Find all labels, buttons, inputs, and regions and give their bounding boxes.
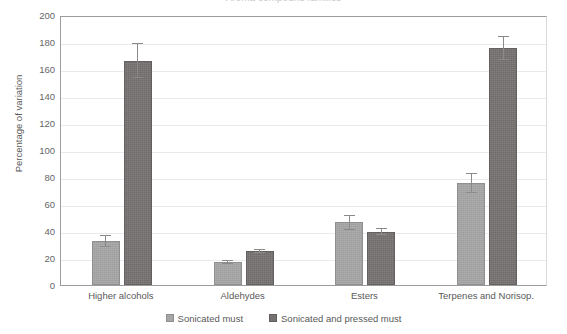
bar-group bbox=[183, 15, 305, 285]
bar bbox=[457, 183, 485, 285]
y-tick-label: 200 bbox=[3, 11, 55, 21]
bar-chart: Aroma compound families 2001801601401201… bbox=[0, 0, 567, 334]
error-bar-cap-top bbox=[344, 215, 355, 216]
bar bbox=[246, 251, 274, 285]
bar bbox=[124, 61, 152, 285]
y-axis-tick-labels: 200180160140120100806040200 bbox=[0, 16, 55, 286]
y-tick-label: 40 bbox=[3, 227, 55, 237]
y-axis-title: Percentage of variation bbox=[13, 34, 24, 214]
legend-swatch-icon bbox=[269, 314, 277, 322]
bar bbox=[214, 262, 242, 285]
bar-group bbox=[426, 15, 548, 285]
cropped-chart-title: Aroma compound families bbox=[0, 0, 567, 7]
error-bar-cap-top bbox=[498, 36, 509, 37]
chart-legend: Sonicated mustSonicated and pressed must bbox=[0, 310, 567, 326]
y-tick-label: 120 bbox=[3, 119, 55, 129]
legend-swatch-icon bbox=[166, 314, 174, 322]
error-bar-cap-top bbox=[100, 235, 111, 236]
legend-label: Sonicated and pressed must bbox=[281, 313, 401, 324]
error-bar-cap-top bbox=[466, 173, 477, 174]
y-tick-label: 140 bbox=[3, 92, 55, 102]
legend-item[interactable]: Sonicated must bbox=[166, 313, 243, 324]
error-bar-cap-top bbox=[376, 228, 387, 229]
bar-group bbox=[61, 15, 183, 285]
error-bar-cap-top bbox=[222, 260, 233, 261]
plot-area bbox=[60, 16, 547, 286]
cropped-chart-title-text: Aroma compound families bbox=[226, 0, 342, 3]
y-tick-label: 0 bbox=[3, 281, 55, 291]
y-tick-label: 80 bbox=[3, 173, 55, 183]
x-axis-tick-labels: Higher alcoholsAldehydesEstersTerpenes a… bbox=[60, 290, 547, 306]
x-tick-label: Terpenes and Norisop. bbox=[438, 290, 534, 302]
bar bbox=[367, 232, 395, 285]
x-tick-label: Esters bbox=[351, 290, 378, 302]
x-tick-label: Higher alcohols bbox=[88, 290, 153, 302]
x-tick-label: Aldehydes bbox=[220, 290, 264, 302]
legend-item[interactable]: Sonicated and pressed must bbox=[269, 313, 401, 324]
error-bar-cap-top bbox=[132, 43, 143, 44]
y-tick-label: 180 bbox=[3, 38, 55, 48]
y-tick-label: 160 bbox=[3, 65, 55, 75]
y-tick-label: 60 bbox=[3, 200, 55, 210]
bar bbox=[92, 241, 120, 285]
bar bbox=[489, 48, 517, 285]
legend-label: Sonicated must bbox=[178, 313, 243, 324]
bar-group bbox=[305, 15, 427, 285]
error-bar-cap-top bbox=[254, 249, 265, 250]
y-tick-label: 20 bbox=[3, 254, 55, 264]
y-tick-label: 100 bbox=[3, 146, 55, 156]
bar bbox=[335, 222, 363, 285]
